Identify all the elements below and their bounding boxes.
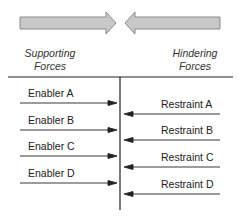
enabler-a-label: Enabler A	[28, 87, 74, 99]
hindering-big-arrow-icon	[125, 12, 220, 34]
supporting-forces-header: Supporting Forces	[18, 47, 82, 73]
restraint-d-label: Restraint D	[161, 178, 214, 190]
supporting-header-line2: Forces	[18, 60, 82, 73]
supporting-big-arrow-icon	[20, 12, 116, 34]
hindering-header-line1: Hindering	[163, 47, 227, 60]
enabler-b-label: Enabler B	[28, 114, 74, 126]
restraint-c-label: Restraint C	[161, 151, 214, 163]
hindering-header-line2: Forces	[163, 60, 227, 73]
supporting-header-line1: Supporting	[18, 47, 82, 60]
hindering-forces-header: Hindering Forces	[163, 47, 227, 73]
enabler-c-label: Enabler C	[28, 140, 75, 152]
restraint-b-label: Restraint B	[161, 124, 213, 136]
enabler-d-label: Enabler D	[28, 167, 75, 179]
restraint-a-label: Restraint A	[161, 98, 212, 110]
